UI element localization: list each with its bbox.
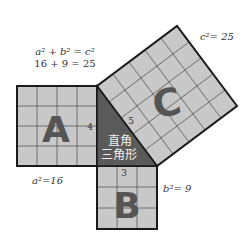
side-c-label: 5 bbox=[128, 116, 134, 126]
side-a-label: 4 bbox=[87, 122, 93, 132]
formula-line1: a² + b² = c² bbox=[35, 46, 94, 57]
square-b-letter: B bbox=[113, 185, 140, 226]
area-a-label: a²=16 bbox=[32, 175, 64, 186]
side-b-label: 3 bbox=[121, 168, 127, 178]
square-a: A bbox=[17, 86, 97, 166]
formula-line2: 16 + 9 = 25 bbox=[34, 58, 95, 69]
triangle-label-line1: 直角 bbox=[108, 134, 132, 148]
area-c-label: c²= 25 bbox=[200, 31, 234, 42]
pythagorean-diagram: C A B 直角 三角形 4 5 3 a bbox=[0, 0, 247, 244]
area-b-label: b²= 9 bbox=[163, 183, 192, 194]
square-b: B bbox=[97, 166, 157, 229]
triangle-label-line2: 三角形 bbox=[101, 148, 137, 162]
square-a-letter: A bbox=[42, 109, 70, 150]
